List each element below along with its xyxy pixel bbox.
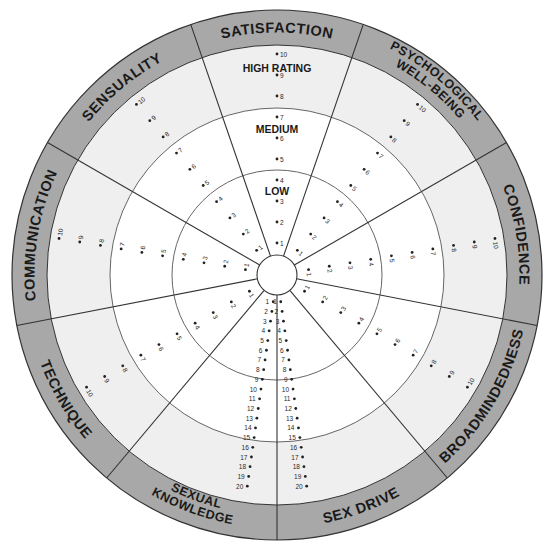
point-dot-icon: [293, 397, 296, 400]
point-dot-icon: [466, 386, 469, 389]
point-dot-icon: [85, 386, 88, 389]
point-dot-icon: [301, 456, 304, 459]
point-dot-icon: [182, 258, 185, 261]
point-number: 6: [259, 347, 263, 354]
point-number: 6: [280, 135, 284, 142]
point-dot-icon: [276, 242, 279, 245]
point-number: 16: [242, 444, 250, 451]
point-dot-icon: [78, 241, 81, 244]
point-dot-icon: [276, 158, 279, 161]
point-dot-icon: [223, 265, 226, 268]
point-dot-icon: [162, 135, 165, 138]
point-number: 1: [266, 298, 270, 305]
point-dot-icon: [289, 368, 292, 371]
point-number: 5: [280, 156, 284, 163]
point-dot-icon: [411, 251, 414, 254]
point-dot-icon: [276, 200, 279, 203]
point-dot-icon: [279, 300, 282, 303]
point-dot-icon: [282, 320, 285, 323]
point-dot-icon: [286, 349, 289, 352]
point-number: 15: [243, 434, 251, 441]
point-dot-icon: [276, 53, 279, 56]
point-dot-icon: [349, 184, 352, 187]
point-dot-icon: [270, 310, 273, 313]
point-dot-icon: [452, 244, 455, 247]
point-dot-icon: [99, 244, 102, 247]
point-dot-icon: [296, 417, 299, 420]
point-dot-icon: [268, 329, 271, 332]
point-number: 8: [280, 93, 284, 100]
point-dot-icon: [269, 320, 272, 323]
point-number: 13: [286, 415, 294, 422]
point-dot-icon: [307, 268, 310, 271]
point-number: 9: [255, 376, 259, 383]
point-dot-icon: [161, 254, 164, 257]
point-dot-icon: [323, 216, 326, 219]
point-dot-icon: [175, 152, 178, 155]
point-number: 14: [244, 424, 252, 431]
zone-label-high: HIGH RATING: [243, 62, 312, 74]
point-dot-icon: [248, 290, 251, 293]
point-dot-icon: [403, 119, 406, 122]
point-dot-icon: [261, 378, 264, 381]
point-dot-icon: [242, 233, 245, 236]
point-dot-icon: [120, 248, 123, 251]
point-number: 2: [274, 308, 278, 315]
point-dot-icon: [276, 137, 279, 140]
point-dot-icon: [297, 426, 300, 429]
point-dot-icon: [290, 378, 293, 381]
point-dot-icon: [258, 397, 261, 400]
point-dot-icon: [389, 135, 392, 138]
point-dot-icon: [254, 426, 257, 429]
point-dot-icon: [416, 103, 419, 106]
point-number: 3: [276, 318, 280, 325]
point-dot-icon: [473, 241, 476, 244]
point-number: 12: [247, 405, 255, 412]
point-number: 3: [263, 318, 267, 325]
point-dot-icon: [194, 322, 197, 325]
point-number: 1: [280, 240, 284, 247]
point-dot-icon: [431, 248, 434, 251]
point-dot-icon: [276, 95, 279, 98]
point-number: 10: [250, 386, 258, 393]
point-dot-icon: [203, 261, 206, 264]
point-number: 8: [283, 366, 287, 373]
point-dot-icon: [202, 184, 205, 187]
point-number: 19: [237, 473, 245, 480]
point-number: 11: [284, 395, 291, 402]
point-dot-icon: [300, 446, 303, 449]
point-number: 20: [236, 483, 244, 490]
point-number: 4: [280, 177, 284, 184]
point-number: 11: [249, 395, 256, 402]
point-number: 16: [290, 444, 298, 451]
point-dot-icon: [148, 119, 151, 122]
point-dot-icon: [294, 407, 297, 410]
point-dot-icon: [265, 349, 268, 352]
point-number: 2: [264, 308, 268, 315]
point-number: 18: [239, 463, 247, 470]
point-dot-icon: [390, 254, 393, 257]
point-dot-icon: [229, 216, 232, 219]
point-dot-icon: [349, 261, 352, 264]
point-dot-icon: [448, 375, 451, 378]
point-dot-icon: [394, 343, 397, 346]
point-dot-icon: [188, 168, 191, 171]
point-dot-icon: [357, 322, 360, 325]
point-number: 18: [293, 463, 301, 470]
point-dot-icon: [276, 74, 279, 77]
point-dot-icon: [264, 359, 267, 362]
point-dot-icon: [304, 475, 307, 478]
point-dot-icon: [376, 152, 379, 155]
point-number: 5: [260, 337, 264, 344]
point-dot-icon: [298, 436, 301, 439]
point-dot-icon: [215, 200, 218, 203]
point-dot-icon: [309, 233, 312, 236]
point-dot-icon: [412, 354, 415, 357]
point-dot-icon: [276, 179, 279, 182]
point-dot-icon: [288, 359, 291, 362]
point-dot-icon: [430, 364, 433, 367]
point-number: 15: [289, 434, 297, 441]
point-dot-icon: [255, 249, 258, 252]
center-hub: [257, 255, 297, 295]
assessment-wheel: SATISFACTIONPSYCHOLOGICALWELL-BEINGCONFI…: [0, 0, 555, 548]
